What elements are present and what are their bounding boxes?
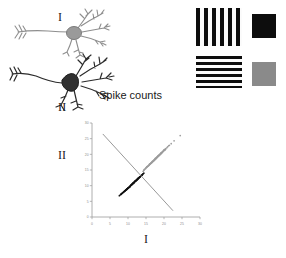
data-point	[154, 159, 156, 161]
y-tick-label: 10	[85, 184, 89, 188]
spike-counts-scatter-plot: 051015202530051015202530	[78, 119, 204, 231]
x-tick-label: 0	[91, 222, 93, 226]
neuron-two-icon	[10, 52, 128, 110]
neuron-one-icon	[14, 6, 124, 58]
data-point	[169, 144, 171, 146]
x-tick-label: 10	[126, 222, 130, 226]
data-point	[128, 187, 130, 189]
y-tick-label: 0	[87, 215, 89, 219]
y-tick-label: 15	[85, 168, 89, 172]
data-point	[143, 172, 145, 174]
data-point	[129, 186, 131, 188]
neuron-one-label: I	[58, 10, 62, 25]
y-tick-label: 30	[85, 121, 89, 125]
data-point	[120, 194, 122, 196]
data-point	[122, 192, 124, 194]
y-axis-label: II	[58, 148, 66, 163]
x-tick-label: 20	[162, 222, 166, 226]
x-tick-label: 30	[198, 222, 202, 226]
y-tick-label: 20	[85, 153, 89, 157]
neuron-one-figure: I	[14, 6, 124, 58]
data-point	[160, 153, 162, 155]
x-tick-label: 15	[144, 222, 148, 226]
horizontal-grating-stimulus	[196, 56, 242, 88]
chart-title: Spike counts	[99, 89, 162, 101]
stimulus-row-vertical	[196, 8, 280, 46]
y-tick-label: 5	[87, 200, 89, 204]
data-point	[151, 162, 153, 164]
data-point	[134, 180, 136, 182]
data-point	[132, 183, 134, 185]
data-point	[142, 170, 144, 172]
x-axis-label: I	[144, 232, 148, 247]
y-tick-label: 25	[85, 137, 89, 141]
horizontal-grating-color-swatch	[252, 62, 276, 86]
stimulus-row-horizontal	[196, 56, 280, 94]
data-point	[170, 143, 172, 145]
scatter-plot-area: 051015202530051015202530	[78, 119, 204, 231]
neuron-two-label: II	[58, 100, 67, 115]
neuron-two-figure: II	[10, 52, 128, 110]
data-point	[166, 147, 168, 149]
data-point	[148, 164, 150, 166]
data-point	[143, 169, 145, 171]
data-point	[126, 189, 128, 191]
data-point	[146, 166, 148, 168]
data-point	[179, 135, 181, 137]
stimulus-panel	[196, 8, 280, 96]
decision-boundary-line	[103, 134, 173, 211]
data-point	[162, 150, 164, 152]
vertical-grating-color-swatch	[252, 14, 276, 38]
data-point	[136, 179, 138, 181]
x-tick-label: 25	[180, 222, 184, 226]
gray-stimulus-cluster	[142, 135, 181, 172]
data-point	[138, 177, 140, 179]
vertical-grating-stimulus	[196, 8, 242, 46]
data-point	[173, 140, 175, 142]
data-point	[157, 156, 159, 158]
x-tick-label: 5	[109, 222, 111, 226]
data-point	[119, 195, 121, 197]
